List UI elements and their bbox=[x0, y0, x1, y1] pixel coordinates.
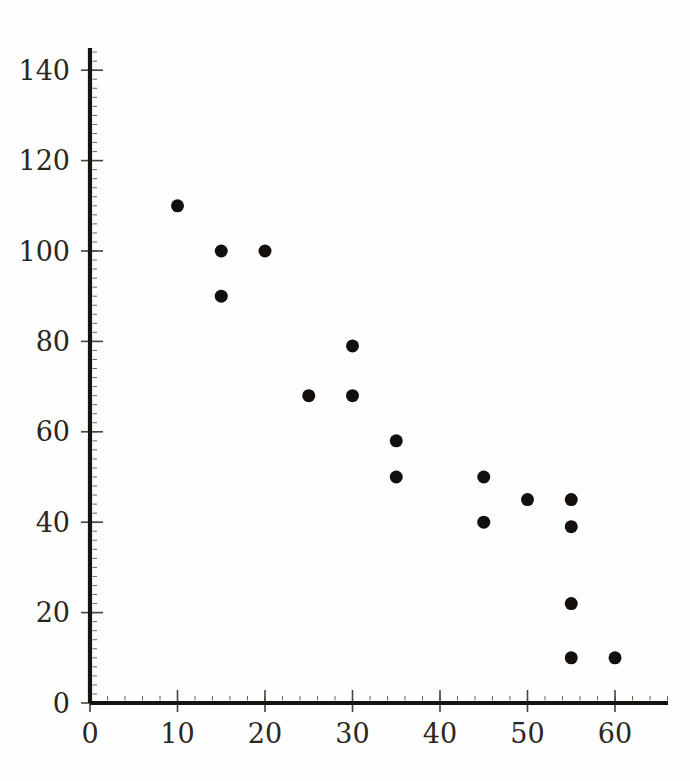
x-axis-tick-label: 10 bbox=[160, 718, 194, 749]
data-point bbox=[565, 651, 578, 664]
y-axis-tick-label: 80 bbox=[36, 326, 70, 357]
data-point bbox=[171, 199, 184, 212]
data-point bbox=[477, 471, 490, 484]
data-point bbox=[521, 493, 534, 506]
y-axis-tick-label: 40 bbox=[36, 507, 70, 538]
data-point bbox=[346, 339, 359, 352]
data-point bbox=[565, 493, 578, 506]
x-axis-tick-label: 60 bbox=[598, 718, 632, 749]
y-axis-tick-label: 20 bbox=[36, 597, 70, 628]
x-axis-tick-label: 20 bbox=[248, 718, 282, 749]
x-axis-tick-label: 40 bbox=[423, 718, 457, 749]
data-point bbox=[390, 471, 403, 484]
y-axis-tick-label: 0 bbox=[53, 688, 70, 719]
data-point bbox=[302, 389, 315, 402]
x-axis-tick-label: 30 bbox=[335, 718, 369, 749]
plot-background bbox=[0, 0, 690, 781]
chart-canvas: 020406080100120140 0102030405060 bbox=[0, 0, 690, 781]
x-axis-tick-label: 50 bbox=[510, 718, 544, 749]
y-axis-tick-label: 60 bbox=[36, 416, 70, 447]
data-point bbox=[565, 597, 578, 610]
y-axis-tick-label: 140 bbox=[18, 55, 70, 86]
data-point bbox=[215, 245, 228, 258]
data-point bbox=[346, 389, 359, 402]
data-point bbox=[390, 434, 403, 447]
data-point bbox=[565, 520, 578, 533]
data-point bbox=[259, 245, 272, 258]
y-axis-tick-label: 100 bbox=[18, 236, 70, 267]
data-point bbox=[477, 516, 490, 529]
y-axis-tick-label: 120 bbox=[18, 145, 70, 176]
scatter-plot-figure: 020406080100120140 0102030405060 bbox=[0, 0, 690, 781]
x-axis-tick-label: 0 bbox=[81, 718, 98, 749]
data-point bbox=[609, 651, 622, 664]
data-point bbox=[215, 290, 228, 303]
